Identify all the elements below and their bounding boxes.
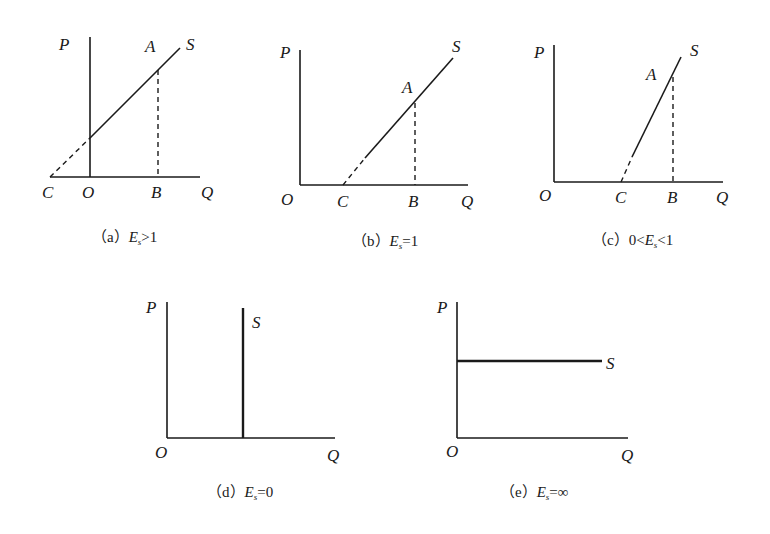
- label-s: S: [452, 37, 461, 56]
- label-p: P: [145, 298, 156, 317]
- label-q: Q: [201, 183, 213, 202]
- label-q: Q: [716, 188, 728, 207]
- label-b: B: [151, 183, 162, 202]
- supply-curve: [365, 58, 453, 158]
- label-p: P: [279, 43, 290, 62]
- supply-extension-dashed: [343, 158, 365, 185]
- label-c: C: [42, 183, 54, 202]
- caption-e: （e）Es=∞: [500, 484, 569, 502]
- supply-extension-dashed: [621, 157, 632, 182]
- label-a: A: [144, 37, 156, 56]
- supply-elasticity-figure: P A S C O B Q （a）Es>1 P A S O C B Q （b）E…: [0, 0, 770, 534]
- caption-a: （a）Es>1: [92, 229, 157, 247]
- label-o: O: [155, 443, 167, 462]
- label-q: Q: [621, 446, 633, 465]
- label-s: S: [690, 41, 699, 60]
- supply-curve: [90, 48, 180, 138]
- panel-c: P A S O C B Q （c）0<Es<1: [533, 41, 728, 250]
- label-s: S: [606, 354, 615, 373]
- caption-b: （b）Es=1: [352, 233, 418, 251]
- label-b: B: [667, 188, 678, 207]
- label-c: C: [337, 192, 349, 211]
- supply-extension-dashed: [50, 138, 90, 177]
- panel-e: P S O Q （e）Es=∞: [436, 298, 633, 502]
- label-o: O: [446, 442, 458, 461]
- panel-b: P A S O C B Q （b）Es=1: [279, 37, 473, 251]
- label-b: B: [408, 192, 419, 211]
- label-o: O: [82, 183, 94, 202]
- label-p: P: [533, 43, 544, 62]
- label-a: A: [401, 78, 413, 97]
- label-o: O: [281, 190, 293, 209]
- label-s: S: [252, 313, 261, 332]
- label-a: A: [645, 65, 657, 84]
- caption-c: （c）0<Es<1: [592, 232, 673, 250]
- panel-a: P A S C O B Q （a）Es>1: [42, 35, 213, 247]
- label-s: S: [186, 35, 195, 54]
- label-c: C: [615, 188, 627, 207]
- label-q: Q: [327, 446, 339, 465]
- caption-d: （d）Es=0: [207, 484, 273, 502]
- label-p: P: [436, 298, 447, 317]
- panel-d: P S O Q （d）Es=0: [145, 298, 339, 502]
- label-q: Q: [461, 192, 473, 211]
- label-o: O: [539, 186, 551, 205]
- label-p: P: [58, 35, 69, 54]
